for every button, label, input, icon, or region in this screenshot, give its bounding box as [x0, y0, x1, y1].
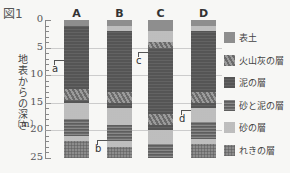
y-tick	[45, 119, 49, 120]
y-tick-label: 25	[27, 151, 43, 162]
layer-sand	[148, 31, 173, 42]
layer-sand	[64, 103, 89, 120]
legend-swatch-gravel	[224, 145, 235, 156]
layer-sand	[191, 108, 216, 122]
y-tick	[45, 92, 49, 93]
y-tick	[45, 141, 49, 142]
column-d	[191, 20, 216, 158]
layer-sandmud	[148, 144, 173, 158]
layer-ash	[64, 89, 89, 100]
column-label-c: C	[148, 7, 173, 20]
y-tick	[45, 125, 49, 126]
layer-mud	[64, 26, 89, 89]
y-tick	[45, 152, 49, 153]
y-tick	[45, 42, 49, 43]
legend-item-mud: 泥の層	[224, 77, 290, 89]
y-tick	[45, 158, 51, 159]
y-tick-label: 0	[27, 13, 43, 24]
column-b	[107, 20, 132, 158]
marker-a: a	[52, 63, 58, 74]
legend-item-sand: 砂の層	[224, 122, 290, 134]
layer-gravel	[191, 144, 216, 158]
legend-swatch-sand	[224, 122, 235, 133]
legend-label: 火山灰の層	[239, 54, 284, 67]
y-tick	[45, 37, 49, 38]
y-tick	[45, 59, 49, 60]
y-tick-label: 10	[27, 68, 43, 79]
marker-d: d	[179, 113, 185, 124]
layer-ash	[191, 92, 216, 103]
y-tick	[45, 114, 49, 115]
y-tick-label: 5	[27, 41, 43, 52]
y-tick	[45, 53, 49, 54]
legend-item-gravel: れきの層	[224, 145, 290, 157]
layer-gravel	[64, 141, 89, 158]
y-tick-label: 20	[27, 123, 43, 134]
y-tick	[45, 81, 49, 82]
legend-label: 泥の層	[239, 76, 266, 89]
y-tick	[45, 64, 49, 65]
y-tick	[45, 26, 49, 27]
legend-label: 砂と泥の層	[239, 99, 284, 112]
legend-item-ash: 火山灰の層	[224, 55, 290, 67]
y-tick	[45, 20, 51, 21]
y-axis-line	[45, 20, 46, 158]
legend-label: 砂の層	[239, 121, 266, 134]
layer-mud	[191, 31, 216, 92]
layer-mud	[107, 31, 132, 92]
legend-swatch-ash	[224, 55, 235, 66]
legend-swatch-topsoil	[224, 32, 235, 43]
layer-topsoil	[148, 20, 173, 31]
y-tick	[45, 70, 49, 71]
y-tick	[45, 108, 49, 109]
legend-label: 表土	[239, 31, 257, 44]
layer-sand	[107, 108, 132, 125]
y-tick	[45, 97, 49, 98]
layer-sand	[148, 130, 173, 144]
legend-swatch-sandmud	[224, 100, 235, 111]
legend-item-topsoil: 表土	[224, 32, 290, 44]
figure-title: 図1	[3, 4, 23, 21]
column-c	[148, 20, 173, 158]
legend-item-sandmud: 砂と泥の層	[224, 100, 290, 112]
column-label-a: A	[64, 7, 89, 20]
layer-ash	[107, 92, 132, 103]
column-label-d: D	[191, 7, 216, 20]
legend-swatch-mud	[224, 77, 235, 88]
legend-label: れきの層	[239, 144, 275, 157]
y-tick	[45, 86, 49, 87]
y-tick	[45, 136, 49, 137]
layer-sandmud	[64, 119, 89, 136]
y-tick	[45, 147, 49, 148]
column-a	[64, 20, 89, 158]
marker-b: b	[95, 143, 101, 154]
marker-c: c	[136, 55, 142, 66]
y-tick	[45, 31, 49, 32]
column-label-b: B	[107, 7, 132, 20]
layer-ash	[148, 114, 173, 125]
layer-sandmud	[107, 125, 132, 142]
y-tick-label: 15	[27, 96, 43, 107]
layer-sandmud	[191, 122, 216, 139]
layer-gravel	[107, 147, 132, 158]
layer-mud	[148, 48, 173, 114]
